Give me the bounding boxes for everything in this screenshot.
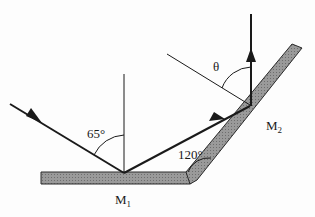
normal-line-m2 xyxy=(167,54,250,105)
arrow-head-icon xyxy=(26,108,42,123)
angle-arc-theta xyxy=(222,67,251,88)
diagram-svg xyxy=(0,0,315,217)
angle-label-120: 120° xyxy=(178,148,203,161)
mirror-m2 xyxy=(186,44,302,184)
angle-label-65: 65° xyxy=(87,127,105,140)
mirror-label-m1: M1 xyxy=(115,193,131,209)
reflected-ray-1 xyxy=(124,106,250,173)
mirror-label-m2: M2 xyxy=(266,119,282,135)
arrow-head-icon xyxy=(246,48,256,62)
diagram-canvas: 65° 120° θ M1 M2 xyxy=(0,0,315,217)
angle-label-theta: θ xyxy=(213,60,219,73)
mirror-m1 xyxy=(41,172,197,184)
